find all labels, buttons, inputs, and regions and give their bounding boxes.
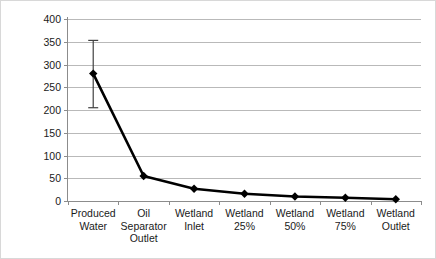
x-axis-category-label-line: Water [68,220,118,233]
x-axis-category-label-line: Separator [118,220,168,233]
x-axis-category-label-line: 75% [320,220,370,233]
series-line [93,74,396,200]
x-axis-category-label-line: 25% [219,220,269,233]
y-axis-tick-label: 100 [43,150,61,162]
x-axis-category-label: Wetland25% [219,207,269,245]
x-axis-category-label-line: Outlet [118,232,168,245]
x-axis-category-label: WetlandOutlet [371,207,421,245]
x-axis-category-labels: ProducedWaterOilSeparatorOutletWetlandIn… [68,207,421,245]
y-axis-tick-label: 250 [43,81,61,93]
x-axis-category-label-line: Wetland [320,207,370,220]
x-axis-tick [169,201,170,205]
x-axis-category-label-line: Wetland [270,207,320,220]
x-axis-category-label: ProducedWater [68,207,118,245]
x-axis-category-label-line: Wetland [219,207,269,220]
x-axis-category-label-line: 50% [270,220,320,233]
y-axis-title: Oil in Water (mg/L) [1,1,21,259]
data-point-marker [240,190,248,198]
y-axis-tick-label: 150 [43,127,61,139]
x-axis-category-label-line: Inlet [169,220,219,233]
data-series [68,19,421,201]
x-axis-tick [421,201,422,205]
gridline [68,201,421,202]
data-point-marker [392,195,400,203]
data-point-marker [341,194,349,202]
x-axis-category-label-line: Oil [118,207,168,220]
x-axis-category-label-line: Wetland [371,207,421,220]
y-axis-tick-label: 300 [43,59,61,71]
x-axis-tick [118,201,119,205]
data-point-marker [139,172,147,180]
x-axis-category-label-line: Outlet [371,220,421,233]
x-axis-tick [270,201,271,205]
plot-area: 050100150200250300350400 [68,19,421,201]
x-axis-category-label: Wetland75% [320,207,370,245]
y-axis-tick-label: 350 [43,36,61,48]
x-axis-tick [320,201,321,205]
data-point-marker [291,192,299,200]
data-point-marker [89,69,97,77]
x-axis-category-label-line: Wetland [169,207,219,220]
chart-figure: Oil in Water (mg/L) 05010015020025030035… [0,0,436,259]
x-axis-category-label: WetlandInlet [169,207,219,245]
x-axis-category-label-line: Produced [68,207,118,220]
y-axis-tick-label: 0 [55,195,61,207]
x-axis-tick [371,201,372,205]
y-axis-tick-label: 200 [43,104,61,116]
x-axis-category-label: Wetland50% [270,207,320,245]
y-axis-tick-label: 50 [49,172,61,184]
x-axis-tick [219,201,220,205]
data-point-marker [190,185,198,193]
y-axis-tick-label: 400 [43,13,61,25]
x-axis-tick [68,201,69,205]
x-axis-category-label: OilSeparatorOutlet [118,207,168,245]
